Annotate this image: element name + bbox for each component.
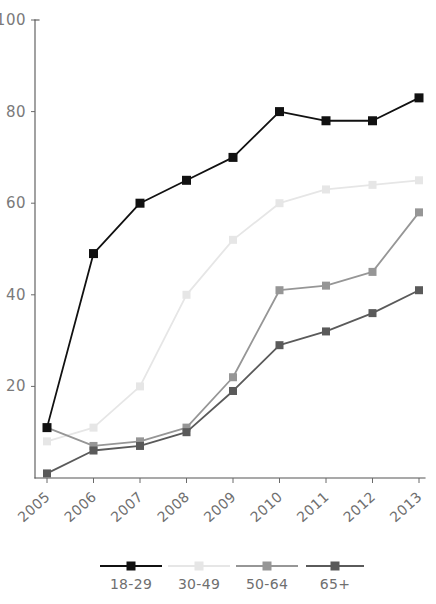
legend-label: 30-49	[178, 576, 220, 592]
series-65plus	[43, 286, 423, 477]
data-point-marker	[90, 447, 98, 455]
data-point-marker	[229, 373, 237, 381]
line-chart: 10080604020 2005200620072008200920102011…	[0, 0, 436, 604]
x-axis-tick-label: 2013	[387, 488, 425, 525]
series-50-64	[43, 208, 423, 450]
x-axis: 200520062007200820092010201120122013	[15, 478, 425, 525]
y-axis-tick-label: 40	[6, 286, 26, 304]
data-point-marker	[229, 153, 238, 162]
legend-label: 65+	[320, 576, 350, 592]
series-18-29	[43, 93, 424, 432]
chart-container: 10080604020 2005200620072008200920102011…	[0, 0, 436, 604]
data-point-marker	[89, 249, 98, 258]
data-point-marker	[369, 181, 377, 189]
x-axis-tick-label: 2009	[201, 488, 239, 525]
legend-item-18-29[interactable]: 18-29	[100, 562, 162, 593]
data-point-marker	[415, 176, 423, 184]
data-point-marker	[415, 208, 423, 216]
legend-marker-swatch	[331, 562, 340, 571]
y-axis: 10080604020	[0, 11, 39, 478]
data-point-marker	[43, 469, 51, 477]
x-axis-tick-label: 2008	[154, 488, 192, 525]
x-axis-tick-label: 2007	[108, 488, 146, 525]
data-point-marker	[229, 236, 237, 244]
chart-legend: 18-2930-4950-6465+	[100, 562, 364, 593]
data-point-marker	[276, 199, 284, 207]
legend-marker-swatch	[263, 562, 272, 571]
data-point-marker	[136, 382, 144, 390]
y-axis-tick-label: 20	[6, 377, 26, 395]
y-axis-tick-label: 60	[6, 194, 26, 212]
x-axis-tick-label: 2012	[340, 488, 378, 525]
x-axis-tick-label: 2010	[247, 488, 285, 525]
y-axis-tick-label: 100	[0, 11, 26, 29]
data-point-marker	[183, 428, 191, 436]
data-point-marker	[322, 116, 331, 125]
data-point-marker	[276, 286, 284, 294]
data-point-marker	[182, 176, 191, 185]
data-series-group	[43, 93, 424, 477]
data-point-marker	[136, 199, 145, 208]
data-point-marker	[415, 286, 423, 294]
legend-label: 50-64	[246, 576, 288, 592]
data-point-marker	[415, 93, 424, 102]
y-axis-tick-label: 80	[6, 103, 26, 121]
legend-marker-swatch	[195, 562, 204, 571]
data-point-marker	[276, 341, 284, 349]
data-point-marker	[369, 268, 377, 276]
data-point-marker	[183, 291, 191, 299]
data-point-marker	[229, 387, 237, 395]
legend-item-30-49[interactable]: 30-49	[168, 562, 230, 593]
legend-item-50-64[interactable]: 50-64	[236, 562, 298, 593]
x-axis-tick-label: 2005	[15, 488, 53, 525]
data-point-marker	[90, 424, 98, 432]
data-point-marker	[322, 185, 330, 193]
legend-label: 18-29	[110, 576, 152, 592]
data-point-marker	[369, 309, 377, 317]
data-point-marker	[275, 107, 284, 116]
data-point-marker	[43, 423, 52, 432]
data-point-marker	[43, 437, 51, 445]
data-point-marker	[322, 327, 330, 335]
data-point-marker	[368, 116, 377, 125]
data-point-marker	[322, 282, 330, 290]
legend-marker-swatch	[127, 562, 136, 571]
x-axis-tick-label: 2006	[61, 488, 99, 525]
data-point-marker	[136, 442, 144, 450]
legend-item-65plus[interactable]: 65+	[306, 562, 364, 593]
series-30-49	[43, 176, 423, 445]
x-axis-tick-label: 2011	[294, 488, 332, 525]
